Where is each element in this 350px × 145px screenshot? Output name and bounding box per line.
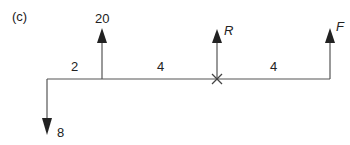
force-label-r: R bbox=[224, 24, 233, 37]
figure-label: (c) bbox=[12, 10, 27, 23]
span-label-2: 4 bbox=[157, 60, 164, 73]
arrowhead-up-icon bbox=[212, 29, 222, 43]
span-label-3: 4 bbox=[270, 60, 277, 73]
span-label-1: 2 bbox=[71, 60, 78, 73]
arrowhead-up-icon bbox=[97, 28, 107, 43]
force-label-8: 8 bbox=[57, 126, 64, 139]
arrowhead-down-icon bbox=[42, 118, 52, 135]
force-label-20: 20 bbox=[95, 12, 109, 25]
arrowhead-up-icon bbox=[325, 28, 335, 43]
force-label-f: F bbox=[336, 20, 344, 33]
beam-diagram bbox=[0, 0, 350, 145]
